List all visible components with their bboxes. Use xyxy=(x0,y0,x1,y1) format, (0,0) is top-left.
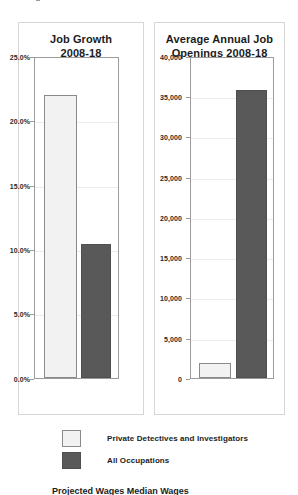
legend-swatch-dark xyxy=(62,452,81,469)
chart-title-line1: Job Growth xyxy=(23,32,139,46)
chart-title-line1: Average Annual Job xyxy=(159,32,280,46)
bar-private-detectives xyxy=(44,95,77,378)
legend-item-private-detectives: Private Detectives and Investigators xyxy=(62,427,292,449)
plot-area-annual-openings xyxy=(190,57,274,379)
y-axis-tick-label: 5,000 xyxy=(150,336,182,343)
legend-swatch-light xyxy=(62,430,81,447)
chart-legend: Private Detectives and Investigators All… xyxy=(62,427,292,471)
legend-label: All Occupations xyxy=(107,456,169,465)
y-axis-tickmark-placeholder xyxy=(36,0,40,1)
plot-area-job-growth xyxy=(34,57,119,379)
y-axis-tick-label: 30,000 xyxy=(150,134,182,141)
y-axis-tick-label: 25.0% xyxy=(4,54,30,61)
y-axis-tickmark xyxy=(186,379,190,380)
y-axis-tick-label: 20,000 xyxy=(150,215,182,222)
bar-private-detectives xyxy=(199,363,231,378)
y-axis-tickmark xyxy=(30,379,34,380)
legend-item-all-occupations: All Occupations xyxy=(62,449,292,471)
y-axis-tick-label: 15.0% xyxy=(4,183,30,190)
y-axis-tick-label: 40,000 xyxy=(150,54,182,61)
y-axis-tick-label: 20.0% xyxy=(4,118,30,125)
y-axis-tick-label: 0.0% xyxy=(4,376,30,383)
y-axis-tick-label: 10.0% xyxy=(4,247,30,254)
y-axis-tick-label: 0 xyxy=(150,376,182,383)
y-axis-tick-label: 5.0% xyxy=(4,311,30,318)
clipped-footer-row: Projected Wages Median Wages xyxy=(0,486,298,495)
y-axis-tick-label: 10,000 xyxy=(150,295,182,302)
clipped-footer-text: Projected Wages Median Wages xyxy=(52,486,189,495)
legend-label: Private Detectives and Investigators xyxy=(107,434,248,443)
bar-all-occupations xyxy=(81,244,111,378)
bar-all-occupations xyxy=(236,90,267,378)
y-axis-tick-label: 15,000 xyxy=(150,255,182,262)
y-axis-tick-label: 25,000 xyxy=(150,175,182,182)
y-axis-tick-label: 35,000 xyxy=(150,94,182,101)
chart-title-job-growth: Job Growth 2008-18 xyxy=(19,23,143,60)
